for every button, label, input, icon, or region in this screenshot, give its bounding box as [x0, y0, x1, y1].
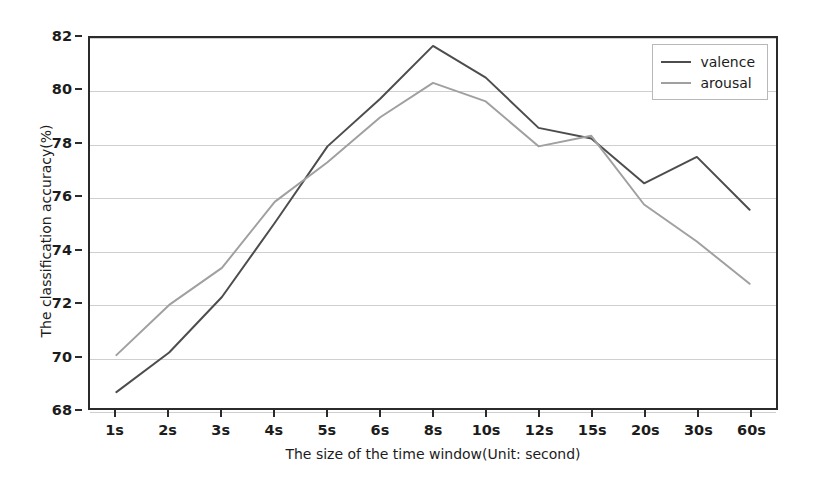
y-tick-mark — [75, 195, 82, 197]
x-tick-mark — [114, 410, 116, 417]
legend-item-arousal[interactable]: arousal — [661, 72, 755, 93]
x-tick-mark — [432, 410, 434, 417]
x-tick-mark — [591, 410, 593, 417]
y-tick-label: 82 — [52, 28, 72, 44]
y-tick-label: 78 — [52, 135, 72, 151]
x-axis: 1s2s3s4s5s6s8s10s12s15s20s30s60s — [88, 410, 778, 444]
y-tick-mark — [75, 302, 82, 304]
x-tick-mark — [750, 410, 752, 417]
legend-line-swatch — [661, 82, 691, 84]
x-tick-mark — [220, 410, 222, 417]
series-line-arousal — [116, 83, 749, 355]
x-tick-label: 1s — [105, 422, 124, 438]
y-tick-mark — [75, 409, 82, 411]
y-axis: 6870727476788082 — [40, 36, 82, 410]
x-tick-mark — [273, 410, 275, 417]
y-tick-mark — [75, 35, 82, 37]
legend-item-valence[interactable]: valence — [661, 51, 755, 72]
x-tick-label: 15s — [578, 422, 607, 438]
x-tick-mark — [697, 410, 699, 417]
legend-label: valence — [700, 54, 755, 70]
y-tick-label: 70 — [52, 349, 72, 365]
y-tick-label: 68 — [52, 402, 72, 418]
x-tick-label: 5s — [317, 422, 336, 438]
y-tick-mark — [75, 249, 82, 251]
x-axis-title: The size of the time window(Unit: second… — [88, 446, 778, 462]
x-tick-label: 30s — [684, 422, 713, 438]
y-tick-mark — [75, 88, 82, 90]
y-tick-mark — [75, 142, 82, 144]
x-tick-mark — [167, 410, 169, 417]
x-tick-label: 4s — [264, 422, 283, 438]
x-tick-mark — [644, 410, 646, 417]
x-tick-label: 3s — [211, 422, 230, 438]
x-tick-label: 2s — [158, 422, 177, 438]
x-tick-mark — [538, 410, 540, 417]
y-tick-label: 80 — [52, 81, 72, 97]
x-tick-label: 60s — [737, 422, 766, 438]
x-tick-label: 10s — [472, 422, 501, 438]
x-tick-label: 6s — [371, 422, 390, 438]
legend: valencearousal — [652, 44, 768, 100]
y-tick-label: 72 — [52, 295, 72, 311]
y-tick-mark — [75, 356, 82, 358]
x-tick-label: 20s — [631, 422, 660, 438]
x-tick-mark — [326, 410, 328, 417]
x-tick-label: 12s — [525, 422, 554, 438]
x-tick-label: 8s — [424, 422, 443, 438]
legend-label: arousal — [700, 75, 751, 91]
chart-figure: The classification accuracy(%) 687072747… — [0, 0, 818, 483]
y-tick-label: 76 — [52, 188, 72, 204]
x-tick-mark — [485, 410, 487, 417]
y-tick-label: 74 — [52, 242, 72, 258]
legend-line-swatch — [661, 61, 691, 63]
x-tick-mark — [379, 410, 381, 417]
plot-area: valencearousal — [88, 36, 778, 410]
